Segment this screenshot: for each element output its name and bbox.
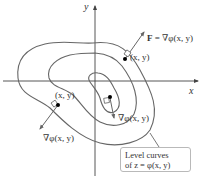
callout-leader [150,133,159,147]
level-curve-inner [89,73,120,113]
point-center [108,95,112,99]
x-axis-label: x [189,86,193,96]
point-label-top-right: (x, y) [130,53,150,62]
callout-line-1: Level curves [125,150,190,160]
point-top-right [123,57,127,61]
vector-label-left: ∇φ(x, y) [43,134,74,143]
vector-label-center: ∇φ(x, y) [118,114,149,123]
point-left [56,103,60,107]
level-curves-figure: y x F = ∇φ(x, y) (x, y) (x, y) ∇φ(x, y) … [0,0,202,182]
gradient-vector-center [110,98,114,118]
level-curves-callout: Level curves of z = φ(x, y) [120,147,191,172]
callout-line-2: of z = φ(x, y) [125,160,190,170]
point-label-left: (x, y) [55,91,75,100]
gradient-vector-left [40,105,58,129]
y-axis-label: y [84,2,88,12]
vector-label-top-right: F = ∇φ(x, y) [147,34,193,43]
